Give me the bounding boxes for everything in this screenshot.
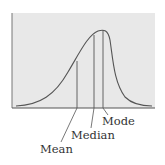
median-label: Median xyxy=(71,128,115,142)
distribution-diagram: Mode Median Mean xyxy=(0,0,165,165)
mean-label: Mean xyxy=(40,142,73,156)
mode-label: Mode xyxy=(102,114,135,128)
median-leader xyxy=(91,108,94,128)
plot-area xyxy=(12,13,155,108)
